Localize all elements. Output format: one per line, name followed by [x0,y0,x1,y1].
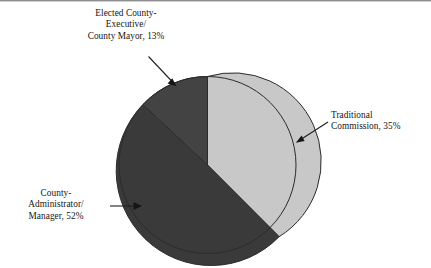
pie-label-traditional-commission: Traditional Commission, 35% [331,110,429,133]
pie-chart-figure: Elected County- Executive/ County Mayor,… [0,0,431,268]
pie-label-county-administrator-manager: County- Administrator/ Manager, 52% [4,188,108,222]
pie-label-elected-county-executive: Elected County- Executive/ County Mayor,… [58,8,194,42]
leader-arrow-elected [149,57,177,87]
